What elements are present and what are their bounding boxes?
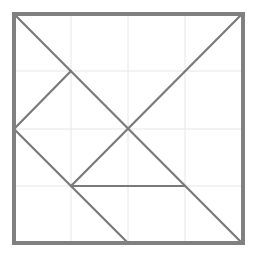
anti-diagonal-partial [71,14,242,186]
upper-left-segment [14,71,71,129]
diagram-svg [0,0,254,264]
tangram-diagram [0,0,254,264]
